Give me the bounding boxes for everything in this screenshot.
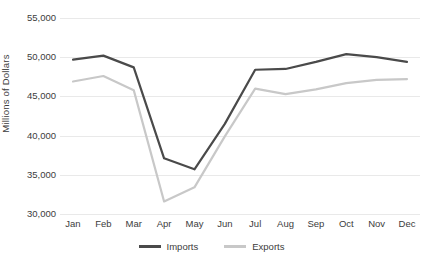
chart-legend: ImportsExports (0, 241, 423, 252)
y-tick-label: 50,000 (4, 51, 56, 62)
legend-swatch-exports (224, 245, 246, 248)
y-tick-label: 45,000 (4, 90, 56, 101)
legend-swatch-imports (139, 245, 161, 248)
y-tick-label: 55,000 (4, 12, 56, 23)
legend-label: Exports (252, 241, 284, 252)
y-tick-label: 30,000 (4, 208, 56, 219)
x-axis-tick-labels: JanFebMarAprMayJunJulAugSepOctNovDec (60, 218, 420, 234)
legend-item-imports[interactable]: Imports (139, 241, 199, 252)
x-tick-label: Feb (95, 218, 111, 229)
x-tick-label: Nov (368, 218, 385, 229)
x-tick-label: Oct (339, 218, 354, 229)
y-axis-tick-labels: 30,00035,00040,00045,00050,00055,000 (0, 18, 56, 214)
x-tick-label: Jan (65, 218, 80, 229)
y-tick-label: 35,000 (4, 169, 56, 180)
x-tick-label: Dec (399, 218, 416, 229)
line-chart: Millions of Dollars 30,00035,00040,00045… (0, 0, 423, 263)
x-tick-label: Jul (249, 218, 261, 229)
x-tick-label: Mar (126, 218, 142, 229)
y-tick-label: 40,000 (4, 130, 56, 141)
x-tick-label: Jun (217, 218, 232, 229)
gridline (60, 214, 420, 215)
x-tick-label: May (185, 218, 203, 229)
x-tick-label: Aug (277, 218, 294, 229)
legend-item-exports[interactable]: Exports (224, 241, 284, 252)
x-tick-label: Sep (307, 218, 324, 229)
legend-label: Imports (167, 241, 199, 252)
series-lines (60, 18, 420, 214)
plot-area (60, 18, 420, 214)
x-tick-label: Apr (157, 218, 172, 229)
